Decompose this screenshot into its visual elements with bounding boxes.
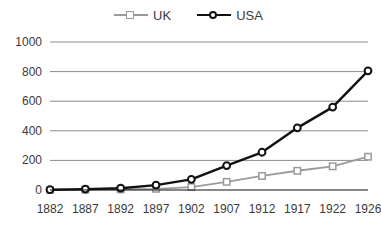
x-tick-label: 1892 [107,203,134,215]
x-tick-label: 1907 [213,203,240,215]
x-tick-label: 1897 [143,203,170,215]
x-tick-label: 1926 [355,203,381,215]
x-tick-label: 1922 [319,203,346,215]
x-tick-label: 1912 [249,203,276,215]
x-tick-label: 1902 [178,203,205,215]
x-tick-label: 1917 [284,203,311,215]
x-tick-label: 1887 [72,203,99,215]
x-tick-label: 1882 [37,203,64,215]
